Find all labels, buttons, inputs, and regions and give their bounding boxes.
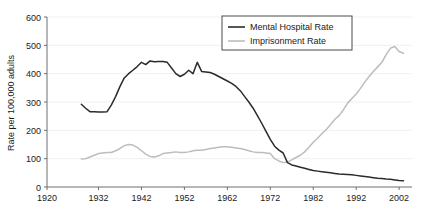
y-axis-title: Rate per 100,000 adults xyxy=(6,54,16,151)
x-tick-label: 2002 xyxy=(389,193,409,203)
x-tick-label: 1992 xyxy=(346,193,366,203)
y-axis-ticks: 0100200300400500600 xyxy=(26,13,47,193)
y-tick-label: 300 xyxy=(26,98,41,108)
x-tick-label: 1972 xyxy=(260,193,280,203)
x-axis-ticks: 192019321942195219621972198219922002 xyxy=(37,187,409,203)
series-line-imprisonment-rate xyxy=(81,46,403,162)
chart-container: 0100200300400500600 19201932194219521962… xyxy=(0,0,421,218)
x-tick-label: 1942 xyxy=(131,193,151,203)
series-line-mental-hospital-rate xyxy=(81,61,403,181)
y-tick-label: 100 xyxy=(26,154,41,164)
y-tick-label: 0 xyxy=(36,183,41,193)
line-chart: 0100200300400500600 19201932194219521962… xyxy=(0,0,421,218)
x-tick-label: 1962 xyxy=(217,193,237,203)
x-tick-label: 1952 xyxy=(174,193,194,203)
x-tick-label: 1920 xyxy=(37,193,57,203)
y-tick-label: 500 xyxy=(26,41,41,51)
y-tick-label: 600 xyxy=(26,13,41,23)
x-tick-label: 1932 xyxy=(89,193,109,203)
series-lines xyxy=(81,46,403,180)
x-tick-label: 1982 xyxy=(303,193,323,203)
legend-label-mental-hospital-rate: Mental Hospital Rate xyxy=(250,22,334,32)
y-tick-label: 400 xyxy=(26,69,41,79)
y-tick-label: 200 xyxy=(26,126,41,136)
legend-label-imprisonment-rate: Imprisonment Rate xyxy=(250,36,326,46)
chart-legend: Mental Hospital Rate Imprisonment Rate xyxy=(222,16,352,50)
